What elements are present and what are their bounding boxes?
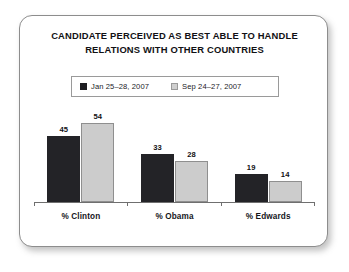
screenshot-root: CANDIDATE PERCEIVED AS BEST ABLE TO HAND… [0,0,349,272]
bar-value-clinton-jan: 45 [60,125,69,134]
bar-wrap-clinton-sep: 54 [81,112,114,203]
chart-title: CANDIDATE PERCEIVED AS BEST ABLE TO HAND… [32,29,317,56]
axis-tick-2 [221,202,222,206]
axis-tick-1 [127,202,128,206]
legend-dark-swatch-icon [80,83,87,90]
axis-tick-0 [34,202,35,206]
bar-value-edwards-sep: 14 [281,170,290,179]
bar-group-obama: 33 28 [128,116,222,202]
bar-obama-sep[interactable] [175,161,208,202]
bar-value-obama-jan: 33 [153,143,162,152]
chart-title-line-2: RELATIONS WITH OTHER COUNTRIES [32,43,317,57]
legend-light-swatch-icon [171,83,178,90]
chart-card: CANDIDATE PERCEIVED AS BEST ABLE TO HAND… [19,15,328,247]
bar-clinton-sep[interactable] [81,123,114,202]
bar-groups: 45 54 33 28 [34,116,315,202]
x-label-clinton: % Clinton [34,212,128,221]
bar-group-edwards: 19 14 [221,116,315,202]
bar-wrap-obama-sep: 28 [175,150,208,203]
axis-tick-3 [314,202,315,206]
bar-wrap-edwards-jan: 19 [235,163,268,203]
bar-wrap-edwards-sep: 14 [269,170,302,203]
bar-wrap-clinton-jan: 45 [47,125,80,203]
chart-title-line-1: CANDIDATE PERCEIVED AS BEST ABLE TO HAND… [32,29,317,43]
bar-edwards-sep[interactable] [269,181,302,202]
x-label-edwards: % Edwards [221,212,315,221]
legend-label-jan: Jan 25–28, 2007 [91,82,149,91]
bar-value-clinton-sep: 54 [94,112,103,121]
bar-clinton-jan[interactable] [47,136,80,202]
bar-wrap-obama-jan: 33 [141,143,174,203]
legend-item-jan[interactable]: Jan 25–28, 2007 [80,82,149,91]
x-axis-labels: % Clinton % Obama % Edwards [34,212,315,221]
bar-group-clinton: 45 54 [34,116,128,202]
bar-value-edwards-jan: 19 [247,163,256,172]
x-label-obama: % Obama [128,212,222,221]
legend-label-sep: Sep 24–27, 2007 [182,82,241,91]
plot-area: 45 54 33 28 [34,116,315,202]
chart-legend: Jan 25–28, 2007 Sep 24–27, 2007 [71,76,279,97]
x-axis [34,202,315,203]
legend-item-sep[interactable]: Sep 24–27, 2007 [171,82,241,91]
bar-value-obama-sep: 28 [187,150,196,159]
bar-edwards-jan[interactable] [235,174,268,202]
bar-obama-jan[interactable] [141,154,174,202]
